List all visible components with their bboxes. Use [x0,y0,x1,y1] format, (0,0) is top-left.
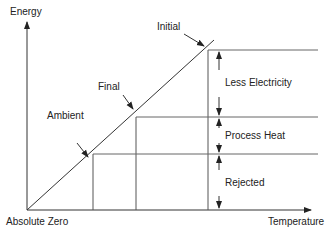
initial-label: Initial [157,21,180,32]
process-heat-label: Process Heat [225,130,285,141]
ambient-pointer-arrow [77,143,88,157]
ambient-label: Ambient [47,110,84,121]
origin-label: Absolute Zero [6,216,69,227]
less-electricity-label: Less Electricity [225,77,292,88]
final-label: Final [98,81,120,92]
initial-pointer-arrow [184,34,204,46]
rejected-label: Rejected [225,177,264,188]
diagonal-line [27,40,214,210]
x-axis-label: Temperature [268,216,325,227]
final-pointer-arrow [123,95,133,109]
energy-temperature-diagram: Energy Temperature Absolute Zero Initial… [0,0,326,237]
y-axis-label: Energy [10,6,42,17]
